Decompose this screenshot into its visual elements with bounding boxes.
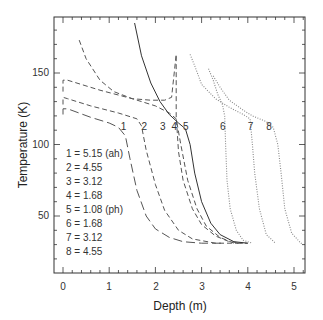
curve-8 [213, 76, 303, 243]
x-tick-label: 4 [245, 281, 251, 292]
x-tick-label: 0 [60, 281, 66, 292]
temperature-depth-chart: 12345678 0 1 2 3 4 5 50 100 150 Depth (m… [0, 0, 323, 320]
curve-label-2: 2 [142, 121, 148, 132]
x-tick-label: 3 [199, 281, 205, 292]
y-tick-label: 100 [32, 139, 49, 150]
y-tick-label: 150 [32, 67, 49, 78]
x-tick-label: 5 [291, 281, 297, 292]
y-tick-labels: 50 100 150 [32, 67, 49, 221]
curve-label-4: 4 [172, 121, 178, 132]
curve-6 [209, 69, 253, 244]
curve-label-7: 7 [248, 121, 254, 132]
y-axis-title: Temperature (K) [16, 102, 30, 189]
x-tick-labels: 0 1 2 3 4 5 [60, 281, 297, 292]
curve-5 [135, 23, 248, 243]
curve-label-6: 6 [220, 121, 226, 132]
curve-labels: 12345678 [121, 121, 273, 132]
legend-item: 4 = 1.68 [66, 190, 103, 201]
legend-item: 5 = 1.08 (ph) [66, 204, 123, 215]
legend: 1 = 5.15 (ah) 2 = 4.55 3 = 3.12 4 = 1.68… [66, 148, 123, 257]
y-tick-label: 50 [38, 210, 50, 221]
curve-label-3: 3 [160, 121, 166, 132]
x-tick-label: 2 [153, 281, 159, 292]
legend-item: 2 = 4.55 [66, 162, 103, 173]
curve-label-8: 8 [266, 121, 272, 132]
x-tick-label: 1 [106, 281, 112, 292]
legend-item: 6 = 1.68 [66, 218, 103, 229]
legend-item: 3 = 3.12 [66, 176, 103, 187]
curve-label-5: 5 [183, 121, 189, 132]
legend-item: 7 = 3.12 [66, 232, 103, 243]
legend-item: 8 = 4.55 [66, 246, 103, 257]
curve-label-1: 1 [121, 121, 127, 132]
curve-7 [190, 54, 275, 243]
legend-item: 1 = 5.15 (ah) [66, 148, 123, 159]
x-axis-title: Depth (m) [153, 299, 206, 313]
